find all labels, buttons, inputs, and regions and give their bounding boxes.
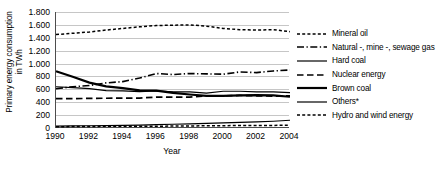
y-tick-label: 1.400	[18, 33, 50, 42]
legend-item-label: Others*	[332, 97, 359, 106]
series-container	[56, 12, 290, 128]
legend-line-swatch-icon	[297, 96, 327, 108]
series-line	[56, 70, 290, 89]
x-axis-tick-labels: 19901992199419961998200020022004	[55, 131, 289, 143]
legend-item-label: Hydro and wind energy	[332, 111, 413, 120]
legend-item-label: Mineral oil	[332, 29, 368, 38]
y-axis-title-line1: Primary energy consumption	[5, 11, 14, 113]
legend-line-swatch-icon	[297, 55, 327, 67]
x-tick-label: 2004	[269, 131, 309, 141]
legend-item-label: Hard coal	[332, 56, 366, 65]
legend-item[interactable]: Natural -, mine -, sewage gas	[297, 41, 439, 55]
legend-item[interactable]: Others*	[297, 95, 439, 109]
legend-item-label: Nuclear energy	[332, 70, 385, 79]
y-tick-label: 400	[18, 98, 50, 107]
y-tick-label: 800	[18, 72, 50, 81]
legend-line-swatch-icon	[297, 82, 327, 94]
legend-item[interactable]: Mineral oil	[297, 27, 439, 41]
chart-figure: Primary energy consumption in TWh 020040…	[0, 0, 439, 172]
legend-line-swatch-icon	[297, 69, 327, 81]
series-line	[56, 25, 290, 35]
legend-line-swatch-icon	[297, 28, 327, 40]
y-tick-label: 200	[18, 111, 50, 120]
chart-legend: Mineral oilNatural -, mine -, sewage gas…	[297, 27, 439, 122]
plot-area	[55, 12, 289, 128]
y-tick-label: 1.800	[18, 8, 50, 17]
legend-item[interactable]: Brown coal	[297, 81, 439, 95]
legend-item-label: Brown coal	[332, 84, 371, 93]
legend-item[interactable]: Nuclear energy	[297, 68, 439, 82]
y-tick-label: 1.200	[18, 46, 50, 55]
y-tick-label: 1.000	[18, 59, 50, 68]
legend-line-swatch-icon	[297, 109, 327, 121]
x-axis-title: Year	[55, 146, 289, 156]
y-axis-tick-labels: 02004006008001.0001.2001.4001.6001.800	[18, 12, 50, 128]
legend-item-label: Natural -, mine -, sewage gas	[332, 43, 435, 52]
legend-item[interactable]: Hard coal	[297, 54, 439, 68]
legend-line-swatch-icon	[297, 41, 327, 53]
y-tick-label: 600	[18, 85, 50, 94]
y-tick-label: 1.600	[18, 20, 50, 29]
legend-item[interactable]: Hydro and wind energy	[297, 109, 439, 123]
series-line	[56, 71, 290, 96]
